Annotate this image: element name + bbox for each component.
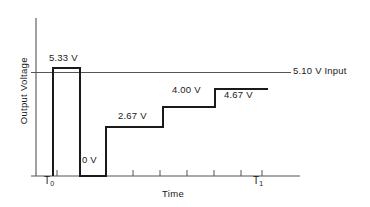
x-axis-title: Time — [128, 189, 218, 199]
annotation-step-two: 4.00 V — [172, 85, 201, 95]
waveform-plot — [0, 0, 370, 207]
annotation-reference-input: 5.10 V Input — [293, 66, 347, 76]
annotation-step-one: 2.67 V — [118, 111, 147, 121]
annotation-pulse-peak: 5.33 V — [49, 53, 78, 63]
annotation-step-three: 4.67 V — [224, 90, 253, 100]
annotation-baseline: 0 V — [82, 155, 97, 165]
y-axis-title: Output Voltage — [19, 45, 29, 137]
x-tick-label-t0: T0 — [44, 176, 54, 186]
chart-figure: Output Voltage Time 5.33 V 0 V 2.67 V 4.… — [0, 0, 370, 207]
x-tick-label-t1: T1 — [253, 176, 263, 186]
